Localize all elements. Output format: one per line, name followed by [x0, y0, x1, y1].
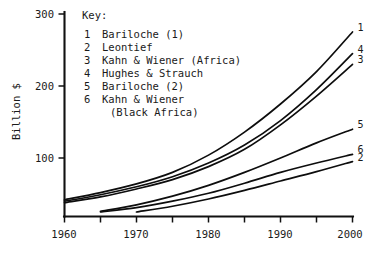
data-curve-2 — [137, 162, 353, 212]
x-tick-label-1980: 1980 — [195, 228, 220, 240]
x-tick-label-1990: 1990 — [267, 228, 292, 240]
key-entry-label-6-cont: (Black Africa) — [110, 106, 199, 118]
x-tick-label-1960: 1960 — [51, 228, 76, 240]
series-end-label-1: 1 — [358, 22, 364, 33]
x-tick-label-1970: 1970 — [123, 228, 148, 240]
series-end-labels-group: 123456 — [358, 22, 364, 163]
key-entry-label-5: Bariloche (2) — [102, 80, 184, 92]
key-entry-number-2: 2 — [84, 41, 90, 53]
y-tick-label-100: 100 — [35, 152, 54, 164]
y-tick-label-300: 300 — [35, 8, 54, 20]
key-entry-number-6: 6 — [84, 93, 90, 105]
data-curve-5 — [101, 129, 353, 211]
key-title: Key: — [82, 9, 107, 21]
chart-key: Key: 1 Bariloche (1) 2 Leontief 3 Kahn &… — [82, 9, 241, 118]
key-entry-number-1: 1 — [84, 28, 90, 40]
key-entry-label-6: Kahn & Wiener — [102, 93, 184, 105]
y-axis-title: Billion $ — [10, 83, 22, 140]
series-end-label-5: 5 — [358, 119, 364, 130]
x-tick-label-2000: 2000 — [337, 228, 362, 240]
y-tick-label-200: 200 — [35, 80, 54, 92]
key-entry-number-3: 3 — [84, 54, 90, 66]
chart-figure: 300 200 100 Billion $ 1960 1970 1980 199… — [0, 0, 367, 259]
chart-plot-area: 300 200 100 Billion $ 1960 1970 1980 199… — [0, 0, 367, 259]
series-end-label-3: 3 — [358, 54, 364, 65]
key-entry-number-4: 4 — [84, 67, 90, 79]
key-entry-label-3: Kahn & Wiener (Africa) — [102, 54, 241, 66]
series-end-label-4: 4 — [358, 44, 364, 55]
series-end-label-6: 6 — [358, 144, 364, 155]
key-entry-number-5: 5 — [84, 80, 90, 92]
key-entry-label-2: Leontief — [102, 41, 153, 53]
key-entry-label-1: Bariloche (1) — [102, 28, 184, 40]
key-entry-label-4: Hughes & Strauch — [102, 67, 203, 79]
